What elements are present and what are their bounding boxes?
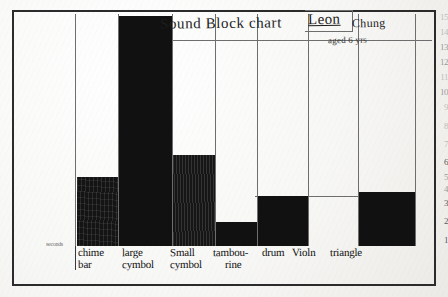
column-line-3 (215, 14, 216, 246)
x-label-large-cymbol: largecymbol (122, 246, 154, 270)
bar-chime-bar (77, 177, 118, 246)
bar-small-cymbol (173, 155, 215, 246)
x-label-tambourine: tambou-rine (213, 246, 248, 270)
author-last-name: Chung (352, 16, 386, 32)
bar-triangle (359, 192, 415, 246)
bar-large-cymbol (119, 16, 172, 246)
paper-sheet: 15 14 13 12 11 10 9 8 7 6 5 4 3 2 1 seco… (0, 0, 448, 297)
author-age-note: aged 6 yrs (328, 35, 367, 46)
x-label-small-cymbol: Smallcymbol (170, 246, 202, 270)
plot-area (75, 14, 432, 246)
author-first-name: Leon (308, 11, 341, 29)
x-label-violn: Violn (292, 246, 316, 258)
x-label-chime-bar: chimebar (78, 246, 104, 270)
x-label-triangle: triangle (330, 246, 362, 258)
title-underline-rule (159, 40, 432, 41)
bar-drum (258, 196, 308, 246)
x-label-drum: drum (262, 246, 285, 258)
column-line-5 (308, 14, 309, 246)
column-line-7 (415, 14, 416, 246)
y-axis-unit-label: seconds (46, 241, 63, 247)
bar-tambourine (216, 222, 257, 246)
column-line-0 (75, 14, 76, 246)
chart-title: Sound Block chart (160, 14, 282, 32)
